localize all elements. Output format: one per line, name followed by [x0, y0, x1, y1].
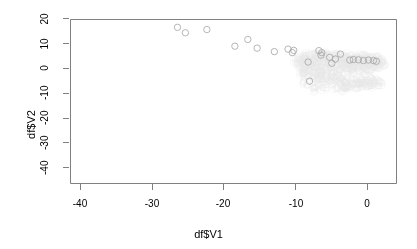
scatter-plot-figure: -40 -30 -20 -10 0 20 10 0 -10 -20 -30 -4…: [0, 0, 417, 249]
xtick-label-1: -30: [132, 198, 172, 209]
xtick-label-2: -20: [203, 198, 243, 209]
ytick-label-3: -10: [38, 86, 68, 100]
y-axis-title: df$V2: [24, 0, 38, 249]
x-axis-title: df$V1: [0, 228, 417, 240]
xtick-label-3: -10: [276, 198, 316, 209]
ytick-label-4: -20: [38, 111, 68, 125]
ytick-label-1: 10: [38, 37, 68, 51]
ytick-label-0: 20: [38, 12, 68, 26]
ytick-label-6: -40: [38, 161, 68, 175]
xtick-label-0: -40: [60, 198, 100, 209]
ytick-label-5: -30: [38, 136, 68, 150]
ytick-label-2: 0: [38, 61, 68, 75]
xtick-label-4: 0: [347, 198, 387, 209]
